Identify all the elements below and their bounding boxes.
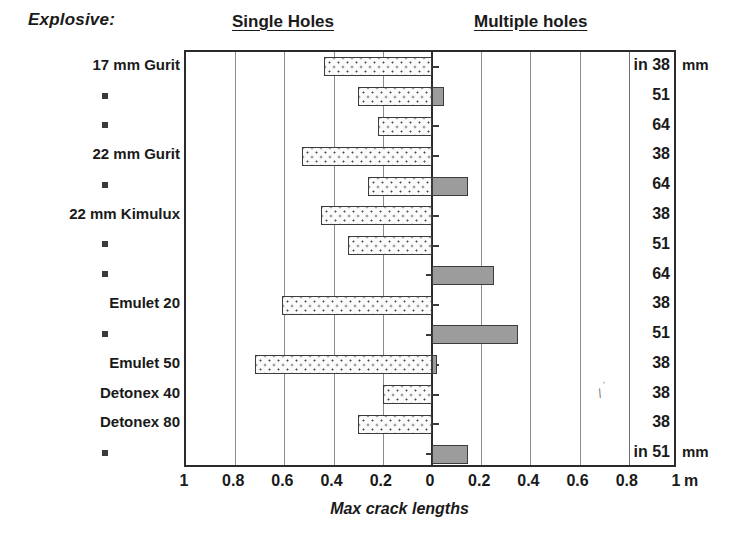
hole-diameter-unit: mm [682,437,709,467]
x-axis-tick-label: 0.6 [271,472,293,490]
hole-diameter-value: 38 [652,407,670,437]
chart-row [186,112,674,142]
bar-single-holes [255,355,432,374]
category-label-column: 17 mm Gurit22 mm Gurit22 mm KimuluxEmule… [5,50,180,467]
hole-diameter-value: 38 [652,378,670,408]
hole-diameter-value: 51 [652,80,670,110]
bar-single-holes [324,57,432,76]
bar-single-holes [348,236,432,255]
bar-single-holes [383,385,432,404]
category-bullet [5,110,180,140]
x-axis-tick-label: 1 [672,472,681,490]
category-label: 22 mm Kimulux [5,199,180,229]
category-bullet [5,259,180,289]
bar-multiple-holes [432,445,468,464]
x-axis-tick-label: 0.2 [468,472,490,490]
bar-single-holes [282,296,432,315]
x-axis-tick-label: 0.4 [517,472,539,490]
bar-multiple-holes [432,177,468,196]
hole-diameter-value: 38 [652,348,670,378]
x-axis-tick-label: 0.8 [616,472,638,490]
hole-diameter-value: 38 [652,288,670,318]
category-bullet [5,229,180,259]
plot-area [184,50,676,467]
hole-diameter-value: 38 [652,139,670,169]
hole-diameter-unit: mm [682,50,709,80]
category-label: Detonex 40 [5,378,180,408]
chart-row [186,350,674,380]
hole-diameter-value: 64 [652,110,670,140]
x-axis-tick-label: 0.8 [222,472,244,490]
chart-row [186,409,674,439]
panel-title-single-holes: Single Holes [232,12,334,32]
chart-page: Explosive: Single Holes Multiple holes 1… [0,0,739,553]
chart-row [186,290,674,320]
bar-multiple-holes [432,325,518,344]
category-label: 17 mm Gurit [5,50,180,80]
chart-row [186,82,674,112]
category-label: Emulet 20 [5,288,180,318]
bar-single-holes [321,206,432,225]
hole-diameter-value: 51 [652,318,670,348]
explosive-heading: Explosive: [28,10,115,30]
category-label: Emulet 50 [5,348,180,378]
chart-row [186,52,674,82]
chart-row [186,439,674,469]
hole-diameter-column: in 38516438643851643851383838in 51 [622,50,676,467]
category-label: Detonex 80 [5,407,180,437]
category-bullet [5,169,180,199]
chart-row [186,201,674,231]
x-axis-tick-label: 0.2 [370,472,392,490]
x-axis-tick-label: 0.4 [320,472,342,490]
chart-row [186,141,674,171]
hole-diameter-value: 38 [652,199,670,229]
bar-multiple-holes [432,266,494,285]
x-axis-tick-label: 0.6 [566,472,588,490]
x-axis-tick-label: 1 [180,472,189,490]
chart-row [186,171,674,201]
bar-single-holes [358,415,432,434]
bar-multiple-holes [432,87,444,106]
x-axis-unit: m [684,472,698,490]
chart-row [186,261,674,291]
bar-single-holes [368,177,432,196]
chart-row [186,320,674,350]
category-bullet [5,437,180,467]
x-axis-title: Max crack lengths [0,500,739,518]
hole-diameter-value: in 51 [634,437,670,467]
panel-title-multiple-holes: Multiple holes [474,12,587,32]
x-axis-tick-label: 0 [426,472,435,490]
category-bullet [5,80,180,110]
hole-diameter-value: 64 [652,169,670,199]
category-label: 22 mm Gurit [5,139,180,169]
hole-diameter-value: in 38 [634,50,670,80]
bar-multiple-holes [432,355,437,374]
bar-single-holes [358,87,432,106]
category-bullet [5,318,180,348]
hole-diameter-value: 51 [652,229,670,259]
bar-single-holes [302,147,432,166]
hole-diameter-value: 64 [652,259,670,289]
bar-single-holes [378,117,432,136]
chart-row [186,231,674,261]
